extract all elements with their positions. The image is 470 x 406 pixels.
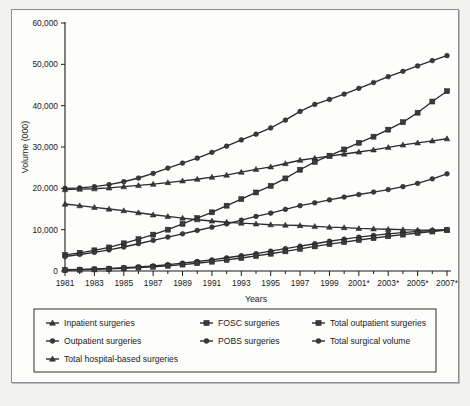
svg-text:1987: 1987 [144, 278, 163, 288]
svg-text:Total hospital-based surgeries: Total hospital-based surgeries [64, 354, 178, 364]
series-outpatient-surgeries [63, 171, 450, 258]
svg-text:1993: 1993 [232, 278, 251, 288]
series-fosc-surgeries [63, 228, 450, 273]
legend-item-total-surgical-volume: Total surgical volume [312, 336, 410, 346]
svg-text:2007*: 2007* [436, 278, 458, 288]
svg-text:1999: 1999 [320, 278, 339, 288]
svg-text:1981: 1981 [56, 278, 75, 288]
svg-text:2001*: 2001* [348, 278, 371, 288]
series-pobs-surgeries [63, 227, 450, 272]
svg-text:POBS surgeries: POBS surgeries [218, 336, 280, 346]
legend-item-total-outpatient-surgeries: Total outpatient surgeries [312, 318, 426, 328]
svg-text:Total outpatient surgeries: Total outpatient surgeries [330, 318, 426, 328]
legend-item-fosc-surgeries: FOSC surgeries [200, 318, 280, 328]
svg-text:2003*: 2003* [377, 278, 400, 288]
svg-text:Total surgical volume: Total surgical volume [330, 336, 410, 346]
chart-frame: 010,00020,00030,00040,00050,00060,000Vol… [11, 9, 459, 383]
svg-text:10,000: 10,000 [32, 225, 58, 235]
svg-text:20,000: 20,000 [32, 183, 58, 193]
svg-text:Volume (000): Volume (000) [20, 121, 30, 173]
svg-text:50,000: 50,000 [32, 59, 58, 69]
svg-text:1983: 1983 [85, 278, 104, 288]
svg-text:1991: 1991 [203, 278, 222, 288]
svg-text:1985: 1985 [114, 278, 133, 288]
svg-text:1989: 1989 [173, 278, 192, 288]
legend-item-total-hospital-based-surgeries: Total hospital-based surgeries [46, 354, 178, 364]
legend-item-outpatient-surgeries: Outpatient surgeries [46, 336, 141, 346]
svg-text:30,000: 30,000 [32, 142, 58, 152]
svg-text:60,000: 60,000 [32, 18, 58, 28]
svg-text:1997: 1997 [291, 278, 310, 288]
legend-item-inpatient-surgeries: Inpatient surgeries [46, 318, 135, 328]
svg-text:FOSC surgeries: FOSC surgeries [218, 318, 280, 328]
svg-text:40,000: 40,000 [32, 101, 58, 111]
svg-text:Years: Years [245, 294, 268, 304]
series-total-outpatient-surgeries [63, 89, 450, 258]
svg-text:Inpatient surgeries: Inpatient surgeries [64, 318, 135, 328]
figure-background: 010,00020,00030,00040,00050,00060,000Vol… [0, 0, 470, 406]
plot-area: 010,00020,00030,00040,00050,00060,000Vol… [12, 10, 458, 382]
legend-item-pobs-surgeries: POBS surgeries [200, 336, 280, 346]
chart-legend: Inpatient surgeriesOutpatient surgeriesT… [34, 309, 436, 372]
svg-text:1995: 1995 [261, 278, 280, 288]
svg-text:Outpatient surgeries: Outpatient surgeries [64, 336, 141, 346]
series-total-hospital-based-surgeries [62, 136, 450, 192]
line-chart: 010,00020,00030,00040,00050,00060,000Vol… [12, 10, 458, 382]
svg-text:2005*: 2005* [407, 278, 430, 288]
svg-text:0: 0 [53, 266, 58, 276]
